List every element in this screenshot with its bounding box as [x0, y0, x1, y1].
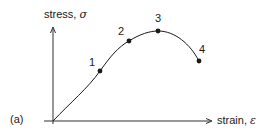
point-3-marker — [156, 29, 161, 34]
point-2-marker — [127, 39, 132, 44]
stress-strain-curve — [53, 31, 199, 121]
panel-label: (a) — [10, 114, 23, 125]
epsilon-symbol: ε — [250, 114, 256, 127]
x-axis-label-text: strain, — [217, 114, 250, 126]
y-axis-label-text: stress, — [44, 8, 79, 20]
point-1-marker — [98, 69, 103, 74]
point-4-marker — [197, 59, 202, 64]
point-3-label: 3 — [155, 13, 161, 24]
point-2-label: 2 — [118, 26, 124, 37]
point-1-label: 1 — [89, 57, 95, 68]
sigma-symbol: σ — [79, 8, 87, 21]
y-axis-label: stress, σ — [44, 9, 87, 20]
x-axis-label: strain, ε — [217, 115, 256, 126]
point-4-label: 4 — [199, 44, 205, 55]
